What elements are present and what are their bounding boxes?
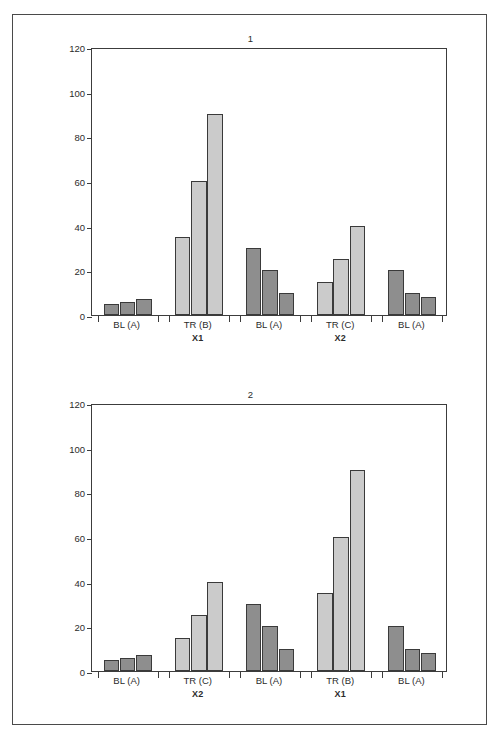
bar	[136, 655, 152, 671]
bar	[246, 604, 262, 671]
x-axis-labels: BL (A)TR (B)X1BL (A)TR (C)X2BL (A)	[91, 319, 447, 363]
bar-series	[92, 405, 446, 671]
x-axis-group-sublabel: X1	[326, 688, 354, 700]
y-axis-tick-mark	[87, 584, 92, 585]
bar	[120, 302, 136, 315]
bar	[279, 293, 295, 315]
x-axis-group-label: TR (B)X1	[184, 319, 212, 344]
bar	[136, 299, 152, 315]
y-axis-tick-mark	[87, 138, 92, 139]
bar	[104, 304, 120, 315]
bar	[405, 649, 421, 671]
x-axis-group-sublabel: X1	[184, 332, 212, 344]
bar	[246, 248, 262, 315]
bar	[279, 649, 295, 671]
bar	[175, 237, 191, 315]
x-axis-labels: BL (A)TR (C)X2BL (A)TR (B)X1BL (A)	[91, 675, 447, 719]
x-axis-group-label: TR (C)X2	[326, 319, 355, 344]
y-axis-tick-mark	[87, 183, 92, 184]
x-axis-group-label: BL (A)	[256, 319, 283, 332]
bar	[333, 537, 349, 671]
bar-series	[92, 49, 446, 315]
bar	[175, 638, 191, 672]
x-axis-group-sublabel: X2	[184, 688, 213, 700]
figure-border: 1 020406080100120 BL (A)TR (B)X1BL (A)TR…	[12, 14, 487, 725]
y-axis-tick-mark	[87, 539, 92, 540]
bar	[388, 270, 404, 315]
plot-area: 020406080100120	[91, 404, 447, 672]
bar	[350, 470, 366, 671]
x-axis-group-label: BL (A)	[398, 675, 425, 688]
bar	[191, 615, 207, 671]
y-axis-tick-mark	[87, 628, 92, 629]
x-axis-group-label: BL (A)	[256, 675, 283, 688]
x-axis-group-label: TR (C)X2	[184, 675, 213, 700]
y-axis-tick-mark	[87, 94, 92, 95]
bar	[350, 226, 366, 315]
bar	[405, 293, 421, 315]
chart-panel-2: 2 020406080100120 BL (A)TR (C)X2BL (A)TR…	[13, 379, 488, 719]
y-axis-tick-mark	[87, 494, 92, 495]
x-axis-group-label: BL (A)	[113, 319, 140, 332]
bar	[421, 297, 437, 315]
bar	[421, 653, 437, 671]
bar	[207, 582, 223, 671]
bar	[317, 593, 333, 671]
x-axis-group-label: BL (A)	[398, 319, 425, 332]
bar	[120, 658, 136, 671]
y-axis-tick-mark	[87, 228, 92, 229]
x-axis-group-sublabel: X2	[326, 332, 355, 344]
bar	[104, 660, 120, 671]
x-axis-group-label: BL (A)	[113, 675, 140, 688]
chart-panel-1: 1 020406080100120 BL (A)TR (B)X1BL (A)TR…	[13, 23, 488, 363]
bar	[191, 181, 207, 315]
plot-area: 020406080100120	[91, 48, 447, 316]
y-axis-tick-mark	[87, 673, 92, 674]
y-axis-tick-mark	[87, 405, 92, 406]
bar	[207, 114, 223, 315]
bar	[388, 626, 404, 671]
y-axis-tick-mark	[87, 272, 92, 273]
y-axis-tick-mark	[87, 450, 92, 451]
bar	[262, 626, 278, 671]
bar	[333, 259, 349, 315]
bar	[317, 282, 333, 316]
bar	[262, 270, 278, 315]
y-axis-tick-mark	[87, 49, 92, 50]
x-axis-group-label: TR (B)X1	[326, 675, 354, 700]
y-axis-tick-mark	[87, 317, 92, 318]
